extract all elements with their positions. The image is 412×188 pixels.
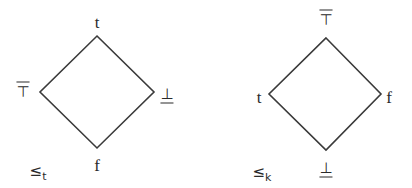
vertex-top-label: ⊤	[319, 13, 332, 28]
truth-lattice-diamond	[40, 36, 154, 148]
ordering-symbol: ≤	[30, 162, 43, 180]
ordering-symbol: ≤	[253, 163, 266, 181]
vertex-left-label: t	[257, 89, 262, 106]
vertex-left-label: ⊤	[16, 85, 29, 100]
vertex-bottom-label: ⊥	[319, 161, 332, 178]
knowledge-lattice-diamond	[269, 38, 381, 150]
vertex-right-label: ⊥	[160, 87, 173, 104]
ordering-subscript: t	[42, 170, 46, 183]
lattice-edges	[0, 0, 412, 188]
vertex-top-label: t	[95, 14, 100, 31]
vertex-bottom-label: f	[94, 157, 100, 174]
ordering-caption: ≤t	[30, 162, 47, 183]
vertex-right-label: f	[386, 89, 392, 106]
ordering-subscript: k	[265, 171, 271, 184]
ordering-caption: ≤k	[253, 163, 272, 184]
